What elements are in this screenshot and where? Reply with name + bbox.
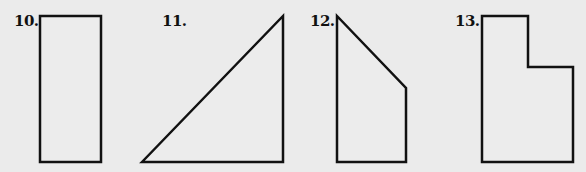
figures-canvas bbox=[0, 0, 586, 172]
figure-13-l-shape bbox=[482, 16, 573, 162]
figure-11-triangle bbox=[142, 16, 283, 162]
figure-12-trapezoid bbox=[337, 16, 406, 162]
figure-10-rectangle bbox=[40, 16, 101, 162]
